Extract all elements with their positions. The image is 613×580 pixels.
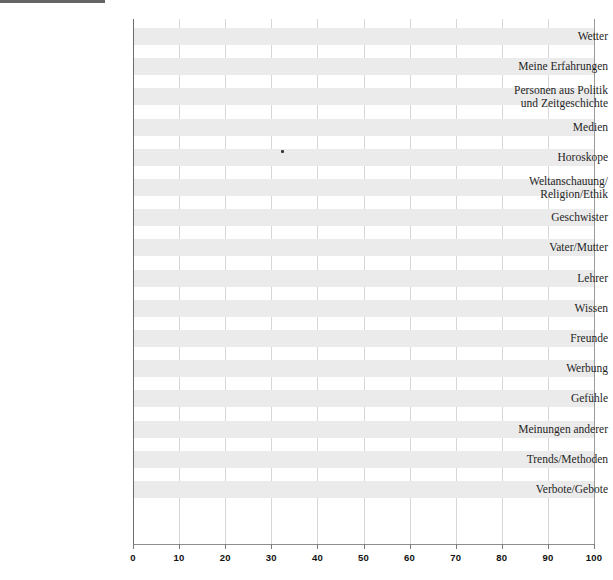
x-tick-10 bbox=[179, 544, 180, 549]
category-label-6: Geschwister bbox=[485, 211, 613, 224]
x-tick-100 bbox=[594, 544, 595, 549]
category-label-12: Gefühle bbox=[485, 392, 613, 405]
category-label-4: Horoskope bbox=[485, 151, 613, 164]
x-tick-60 bbox=[410, 544, 411, 549]
x-tick-40 bbox=[317, 544, 318, 549]
x-tick-label-30: 30 bbox=[251, 552, 291, 563]
x-tick-50 bbox=[364, 544, 365, 549]
x-tick-label-80: 80 bbox=[482, 552, 522, 563]
y-axis-line bbox=[133, 19, 134, 544]
x-tick-90 bbox=[548, 544, 549, 549]
category-label-10: Freunde bbox=[485, 332, 613, 345]
scan-speck-artifact bbox=[281, 150, 284, 153]
category-label-2: Personen aus Politik und Zeitgeschichte bbox=[485, 84, 613, 110]
x-tick-0 bbox=[133, 544, 134, 549]
category-label-11: Werbung bbox=[485, 362, 613, 375]
category-label-0: Wetter bbox=[485, 30, 613, 43]
horizontal-bar-chart: WetterMeine ErfahrungenPersonen aus Poli… bbox=[0, 0, 613, 580]
category-label-5: Weltanschauung/ Religion/Ethik bbox=[485, 175, 613, 201]
x-tick-label-100: 100 bbox=[574, 552, 613, 563]
category-label-1: Meine Erfahrungen bbox=[485, 60, 613, 73]
category-label-3: Medien bbox=[485, 121, 613, 134]
category-label-7: Vater/Mutter bbox=[485, 241, 613, 254]
category-label-15: Verbote/Gebote bbox=[485, 483, 613, 496]
x-tick-label-40: 40 bbox=[297, 552, 337, 563]
category-label-13: Meinungen anderer bbox=[485, 423, 613, 436]
x-tick-20 bbox=[225, 544, 226, 549]
x-tick-label-90: 90 bbox=[528, 552, 568, 563]
x-tick-label-70: 70 bbox=[436, 552, 476, 563]
x-tick-label-20: 20 bbox=[205, 552, 245, 563]
x-tick-30 bbox=[271, 544, 272, 549]
category-label-9: Wissen bbox=[485, 302, 613, 315]
x-tick-label-10: 10 bbox=[159, 552, 199, 563]
x-tick-70 bbox=[456, 544, 457, 549]
category-label-14: Trends/Methoden bbox=[485, 453, 613, 466]
category-label-8: Lehrer bbox=[485, 272, 613, 285]
x-tick-label-60: 60 bbox=[390, 552, 430, 563]
x-tick-label-0: 0 bbox=[113, 552, 153, 563]
x-tick-label-50: 50 bbox=[344, 552, 384, 563]
x-tick-80 bbox=[502, 544, 503, 549]
